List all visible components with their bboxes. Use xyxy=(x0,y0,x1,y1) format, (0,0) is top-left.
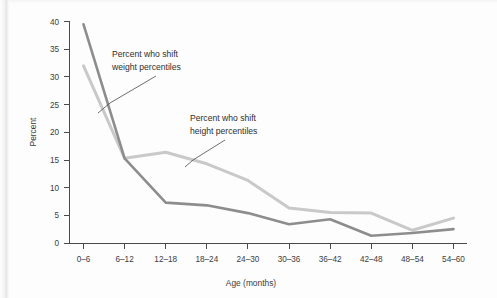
y-axis: 40 35 30 25 20 15 10 5 0 Percent xyxy=(28,18,70,249)
weight-annotation-line1: Percent who shift xyxy=(112,49,179,59)
y-tick-label-25: 25 xyxy=(50,101,60,110)
x-tick-label-2: 12–18 xyxy=(154,255,177,264)
y-tick-label-20: 20 xyxy=(50,128,60,137)
y-tick-label-0: 0 xyxy=(54,239,59,248)
x-tick-label-5: 30–36 xyxy=(278,255,301,264)
annotation-weight-percentiles: Percent who shift weight percentiles xyxy=(98,49,181,113)
y-tick-label-40: 40 xyxy=(50,18,60,27)
y-tick-label-5: 5 xyxy=(54,211,59,220)
y-tick-label-35: 35 xyxy=(50,45,60,54)
y-tick-label-15: 15 xyxy=(50,156,60,165)
annotation-height-percentiles: Percent who shift height percentiles xyxy=(185,113,257,167)
height-annotation-line2: height percentiles xyxy=(190,126,257,136)
x-tick-label-8: 48–54 xyxy=(401,255,424,264)
weight-annotation-leader xyxy=(98,76,156,113)
x-tick-label-3: 18–24 xyxy=(195,255,218,264)
series-line-height-percentiles xyxy=(84,66,454,230)
x-tick-labels: 0–66–1212–1818–2424–3030–3636–4242–4848–… xyxy=(77,255,466,264)
height-annotation-line1: Percent who shift xyxy=(190,113,257,123)
x-axis: 0–66–1212–1818–2424–3030–3636–4242–4848–… xyxy=(70,244,468,289)
x-tick-marks xyxy=(84,244,454,250)
x-tick-label-4: 24–30 xyxy=(237,255,260,264)
x-tick-label-7: 42–48 xyxy=(360,255,383,264)
y-tick-label-10: 10 xyxy=(50,184,60,193)
x-tick-label-9: 54–60 xyxy=(442,255,465,264)
line-chart-svg: 40 35 30 25 20 15 10 5 0 Percent 0–66–12… xyxy=(0,0,497,298)
x-tick-label-1: 6–12 xyxy=(116,255,135,264)
x-axis-title: Age (months) xyxy=(226,278,276,288)
x-tick-label-6: 36–42 xyxy=(319,255,342,264)
x-tick-label-0: 0–6 xyxy=(77,255,91,264)
weight-annotation-line2: weight percentiles xyxy=(111,62,181,72)
y-tick-label-30: 30 xyxy=(50,73,60,82)
chart-figure: 40 35 30 25 20 15 10 5 0 Percent 0–66–12… xyxy=(0,0,497,298)
y-axis-title: Percent xyxy=(28,117,38,147)
